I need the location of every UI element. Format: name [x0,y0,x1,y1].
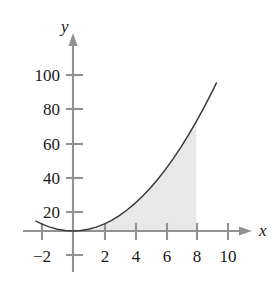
y-tick-label-80: 80 [18,101,60,118]
y-tick-label-40: 40 [18,170,60,187]
x-axis-label: x [259,222,267,239]
shaded-area-region [73,121,196,231]
figure-container: y x 100 80 60 40 20 −2 2 4 6 8 10 [0,0,277,289]
x-axis-arrowhead [239,226,252,235]
y-axis-label: y [61,18,69,35]
y-tick-label-60: 60 [18,136,60,153]
x-tick-label-10: 10 [208,248,248,265]
x-tick-label-minus2: −2 [22,248,62,265]
y-axis-arrowhead [68,33,77,46]
y-tick-label-20: 20 [18,204,60,221]
y-axis-tick-marks [66,75,83,255]
y-tick-label-100: 100 [18,67,60,84]
